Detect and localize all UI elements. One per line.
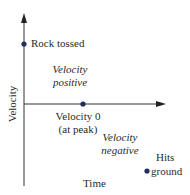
rock-tossed-point <box>21 41 26 46</box>
x-axis-label: Time <box>83 177 106 190</box>
hits-label: Hits <box>156 151 174 164</box>
ground-label: ground <box>151 165 182 178</box>
velocity-negative-line2: negative <box>90 144 150 157</box>
velocity-positive-line2: positive <box>40 76 100 89</box>
hits-ground-point <box>144 168 149 173</box>
y-axis-label: Velocity <box>6 84 18 124</box>
y-axis-arrow-icon <box>21 13 27 23</box>
velocity-negative-line1: Velocity <box>90 131 150 144</box>
velocity-negative-label: Velocity negative <box>90 131 150 157</box>
x-axis-arrow-icon <box>156 101 166 107</box>
velocity-positive-label: Velocity positive <box>40 63 100 89</box>
peak-point <box>80 101 85 106</box>
velocity-time-diagram: Rock tossed Velocity positive Velocity V… <box>0 0 190 195</box>
rock-tossed-label: Rock tossed <box>31 37 84 50</box>
peak-label-line1: Velocity 0 <box>48 110 108 123</box>
velocity-positive-line1: Velocity <box>40 63 100 76</box>
